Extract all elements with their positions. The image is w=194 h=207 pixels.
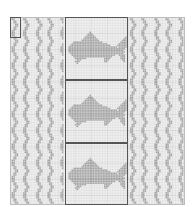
knitting-chart-grid	[10, 17, 185, 205]
pattern-grid-canvas	[10, 17, 185, 205]
